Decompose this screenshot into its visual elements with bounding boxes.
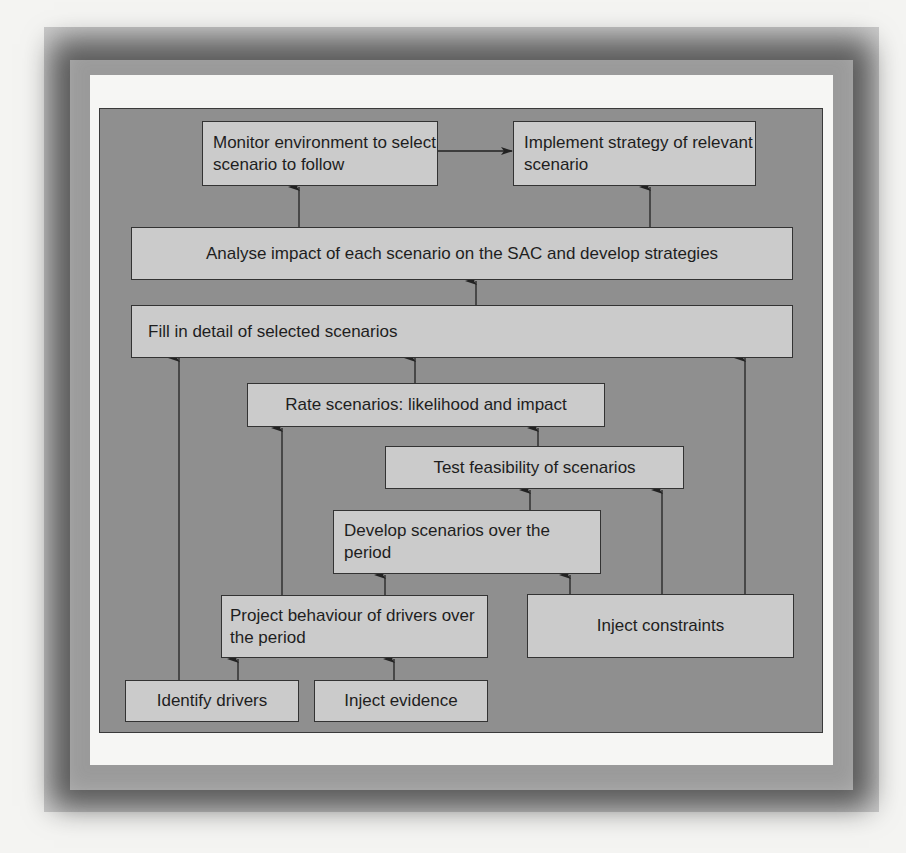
node-inject-constraints: Inject constraints (527, 594, 794, 658)
node-label: Inject constraints (597, 615, 725, 637)
node-label: Analyse impact of each scenario on the S… (206, 243, 718, 265)
node-analyse-impact: Analyse impact of each scenario on the S… (131, 227, 793, 280)
node-fill-in-detail: Fill in detail of selected scenarios (131, 305, 793, 358)
node-label: Develop scenarios over the period (344, 520, 592, 564)
node-label: Project behaviour of drivers over the pe… (230, 605, 487, 649)
node-label: Identify drivers (157, 690, 268, 712)
node-implement-strategy: Implement strategy of relevant scenario (513, 121, 756, 186)
node-inject-evidence: Inject evidence (314, 680, 488, 722)
node-develop-scenarios: Develop scenarios over the period (333, 510, 601, 574)
node-label: Rate scenarios: likelihood and impact (285, 394, 567, 416)
node-label: Monitor environment to select scenario t… (213, 132, 437, 176)
node-monitor-environment: Monitor environment to select scenario t… (202, 121, 438, 186)
node-label: Implement strategy of relevant scenario (524, 132, 755, 176)
node-rate-scenarios: Rate scenarios: likelihood and impact (247, 383, 605, 427)
node-project-behaviour: Project behaviour of drivers over the pe… (221, 595, 488, 658)
node-test-feasibility: Test feasibility of scenarios (385, 446, 684, 489)
node-identify-drivers: Identify drivers (125, 680, 299, 722)
node-label: Fill in detail of selected scenarios (148, 321, 397, 343)
node-label: Inject evidence (344, 690, 457, 712)
node-label: Test feasibility of scenarios (433, 457, 635, 479)
